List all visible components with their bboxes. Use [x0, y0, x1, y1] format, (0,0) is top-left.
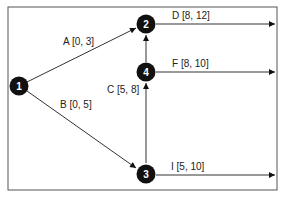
- edge-b-label: B [0, 5]: [60, 99, 92, 110]
- node-1-label: 1: [16, 81, 22, 92]
- edge-b: B [0, 5]: [27, 91, 136, 168]
- node-3-label: 3: [143, 169, 149, 180]
- edge-a: A [0, 3]: [27, 28, 136, 82]
- edge-i: I [5, 10]: [156, 161, 275, 175]
- edge-c: C [5, 8]: [107, 83, 146, 163]
- edge-d-label: D [8, 12]: [172, 10, 210, 21]
- node-4-label: 4: [143, 67, 149, 78]
- node-1: 1: [10, 77, 29, 96]
- edge-d: D [8, 12]: [156, 10, 275, 24]
- edge-i-label: I [5, 10]: [171, 161, 205, 172]
- edge-c-label: C [5, 8]: [107, 84, 139, 95]
- edge-a-label: A [0, 3]: [63, 36, 94, 47]
- diagram-border: [8, 7, 277, 190]
- node-2: 2: [137, 15, 156, 34]
- edge-f: F [8, 10]: [156, 58, 275, 72]
- network-diagram: A [0, 3] B [0, 5] C [5, 8] D [8, 12] F […: [0, 0, 281, 200]
- node-2-label: 2: [143, 19, 149, 30]
- node-3: 3: [137, 165, 156, 184]
- edge-f-label: F [8, 10]: [172, 58, 209, 69]
- node-4: 4: [137, 63, 156, 82]
